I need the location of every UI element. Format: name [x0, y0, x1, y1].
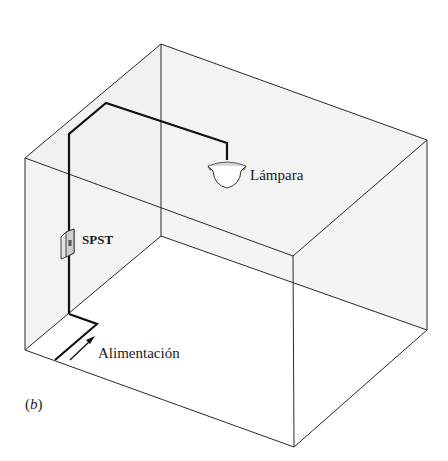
lamp-label: Lámpara [250, 168, 303, 183]
figure-caption: (b) [25, 397, 43, 412]
caption-letter: b [30, 396, 38, 412]
room-wiring-diagram: Lámpara SPST Alimentación (b) [0, 0, 448, 461]
diagram-canvas [0, 0, 448, 461]
caption-close-paren: ) [38, 396, 43, 412]
switch-label: SPST [82, 233, 113, 246]
power-feed-label: Alimentación [98, 346, 180, 361]
